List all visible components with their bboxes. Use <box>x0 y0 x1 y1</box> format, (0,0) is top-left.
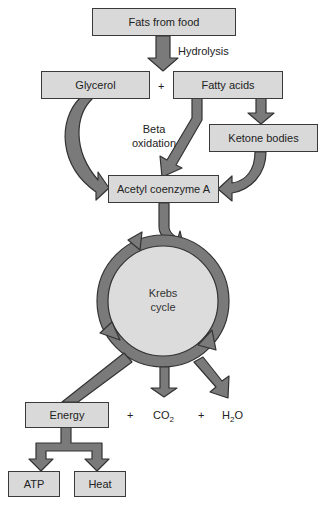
krebs-line2: cycle <box>138 300 188 314</box>
node-heat: Heat <box>74 471 126 497</box>
node-atp: ATP <box>8 471 60 497</box>
node-krebs-cycle: Krebs cycle <box>138 286 188 314</box>
fatty-to-ketone-arrow <box>248 98 274 124</box>
h2o-o: O <box>234 409 243 421</box>
glycerol-to-acetyl-arrow <box>65 98 109 200</box>
node-energy: Energy <box>25 402 109 428</box>
h2o-h: H <box>222 409 230 421</box>
energy-split-arrow <box>29 427 109 471</box>
krebs-to-energy-arrow <box>62 353 132 402</box>
co2-main: CO <box>153 409 170 421</box>
label-beta-oxidation: Beta oxidation <box>130 122 178 150</box>
node-fatty-acids: Fatty acids <box>173 71 283 99</box>
krebs-line1: Krebs <box>138 286 188 300</box>
label-hydrolysis: Hydrolysis <box>178 44 229 58</box>
label-h2o: H2O <box>222 408 243 427</box>
krebs-to-h2o-arrow <box>194 357 229 398</box>
hydrolysis-arrow <box>148 36 178 71</box>
label-plus-energy-co2: + <box>127 408 133 422</box>
node-glycerol: Glycerol <box>41 71 150 99</box>
node-ketone-bodies: Ketone bodies <box>209 124 318 152</box>
node-acetyl-coenzyme-a: Acetyl coenzyme A <box>108 175 219 203</box>
node-fats-from-food: Fats from food <box>92 8 236 36</box>
label-beta-line2: oxidation <box>130 136 178 150</box>
label-co2: CO2 <box>153 408 174 427</box>
ketone-to-acetyl-arrow <box>218 152 266 201</box>
krebs-to-co2-arrow <box>151 367 177 397</box>
label-beta-line1: Beta <box>130 122 178 136</box>
label-plus-co2-h2o: + <box>198 408 204 422</box>
co2-subscript: 2 <box>170 415 174 424</box>
label-plus-glycerol-fatty: + <box>158 79 164 93</box>
